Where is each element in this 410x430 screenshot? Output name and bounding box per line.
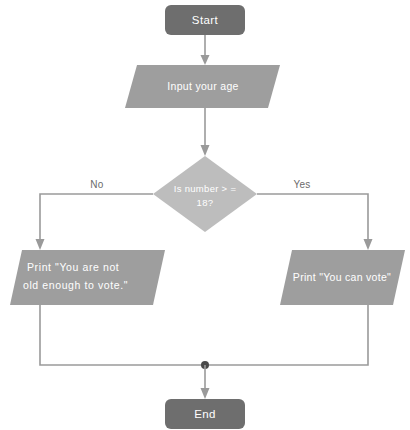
node-start[interactable]: Start	[165, 5, 245, 35]
print-can-vote-label: Print "You can vote"	[293, 271, 391, 283]
connector-no-branch	[36, 194, 154, 250]
node-print-can-vote[interactable]: Print "You can vote"	[280, 250, 405, 305]
connector-start-to-input	[201, 35, 210, 65]
node-decision[interactable]: Is number > = 18?	[153, 156, 257, 232]
flowchart-diagram: Start Input your age Is number > = 18? N…	[0, 0, 410, 430]
print-not-old-enough-label-line1: Print "You are not	[27, 261, 119, 273]
node-end[interactable]: End	[165, 399, 245, 429]
connector-yes-branch	[257, 194, 373, 250]
decision-shape	[153, 156, 257, 232]
edge-label-no: No	[90, 179, 104, 190]
node-print-not-old-enough[interactable]: Print "You are not old enough to vote."	[10, 250, 165, 305]
decision-label-line2: 18?	[197, 197, 214, 208]
print-not-old-enough-shape	[10, 250, 165, 305]
print-not-old-enough-label-line2: old enough to vote."	[23, 279, 128, 291]
connector-right-to-merge	[205, 305, 368, 365]
start-label: Start	[192, 14, 219, 26]
connector-left-to-merge	[40, 305, 205, 365]
decision-label-line1: Is number > =	[174, 183, 237, 194]
connector-input-to-decision	[201, 108, 210, 156]
node-input-age[interactable]: Input your age	[125, 65, 280, 108]
connector-merge-to-end	[201, 365, 210, 399]
input-age-label: Input your age	[167, 80, 238, 92]
edge-label-yes: Yes	[293, 179, 310, 190]
end-label: End	[194, 408, 216, 420]
flowchart-canvas: Start Input your age Is number > = 18? N…	[0, 0, 410, 430]
